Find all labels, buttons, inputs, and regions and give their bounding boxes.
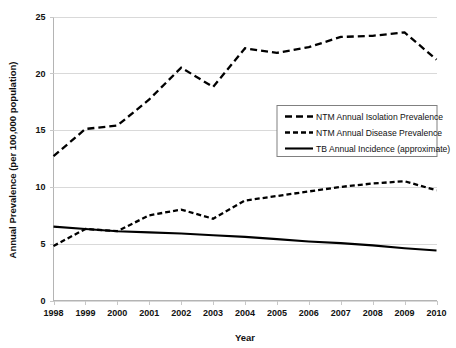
x-tick-label-2001: 2001	[139, 308, 159, 318]
series-line-2	[54, 227, 437, 251]
chart-legend: NTM Annual Isolation PrevalenceNTM Annua…	[277, 106, 450, 157]
y-tick-label-20: 20	[35, 69, 45, 79]
x-axis-title: Year	[235, 332, 255, 343]
axis-lines	[54, 17, 437, 301]
y-axis-title-text: Annual Prevalence (per 100,000 populatio…	[7, 62, 18, 259]
x-tick-label-2007: 2007	[331, 308, 351, 318]
x-tick-label-2003: 2003	[203, 308, 223, 318]
legend-label-1: NTM Annual Disease Prevalence	[316, 128, 442, 138]
x-axis-title-text: Year	[235, 332, 255, 343]
x-tick-label-2000: 2000	[107, 308, 127, 318]
x-tick-label-1998: 1998	[43, 308, 63, 318]
y-tick-label-5: 5	[40, 239, 45, 249]
x-tick-label-2009: 2009	[395, 308, 415, 318]
x-tick-label-1999: 1999	[75, 308, 95, 318]
y-tick-label-25: 25	[35, 12, 45, 22]
legend-label-0: NTM Annual Isolation Prevalence	[316, 112, 443, 122]
gridlines	[54, 18, 437, 302]
y-tick-label-10: 10	[35, 182, 45, 192]
y-tick-label-0: 0	[40, 296, 45, 306]
y-axis-tick-labels: 0510152025	[35, 12, 45, 306]
axis-ticks	[50, 18, 438, 305]
x-tick-label-2002: 2002	[171, 308, 191, 318]
line-chart: 0510152025 19981999200020012002200320042…	[0, 0, 456, 348]
chart-container: 0510152025 19981999200020012002200320042…	[0, 0, 456, 348]
x-tick-label-2006: 2006	[299, 308, 319, 318]
x-tick-label-2010: 2010	[426, 308, 446, 318]
legend-label-2: TB Annual Incidence (approximate)	[316, 144, 450, 154]
x-tick-label-2005: 2005	[267, 308, 287, 318]
x-tick-label-2004: 2004	[235, 308, 255, 318]
y-axis-title: Annual Prevalence (per 100,000 populatio…	[7, 62, 18, 259]
x-tick-label-2008: 2008	[363, 308, 383, 318]
y-tick-label-15: 15	[35, 125, 45, 135]
x-axis-tick-labels: 1998199920002001200220032004200520062007…	[43, 308, 446, 318]
